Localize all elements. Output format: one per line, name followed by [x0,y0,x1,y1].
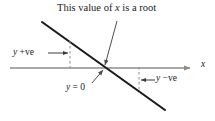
figure-title: This value of x is a root [57,3,156,14]
title-after: is a root [120,2,156,13]
label-y-negative: y −ve [156,74,177,84]
label-y-negative-rest: −ve [160,73,177,83]
title-before: This value of [57,2,115,13]
label-y-zero: y = 0 [66,83,85,93]
x-axis-label: x [201,60,205,70]
figure-canvas [0,0,215,121]
y-zero-leader-arrow [92,70,103,83]
label-y-positive-rest: +ve [17,47,34,57]
title-leader-arrow [105,21,117,65]
function-line [42,22,165,110]
label-y-zero-rest: = 0 [70,82,85,92]
label-y-positive: y +ve [13,48,34,58]
root-of-equation-figure: This value of x is a root y +ve y −ve y … [0,0,215,121]
